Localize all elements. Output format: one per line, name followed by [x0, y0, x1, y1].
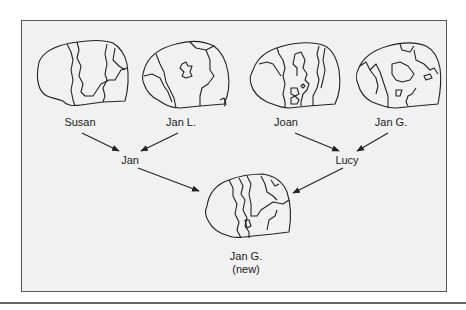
region-boundary — [239, 178, 249, 238]
region-boundary — [229, 180, 241, 238]
brain-outline — [357, 43, 441, 108]
region-boundary — [267, 210, 277, 230]
label-jan: Jan — [121, 154, 139, 167]
region-boundary — [247, 176, 289, 216]
arrow-lucy-to-result — [293, 168, 343, 193]
label-result-note: (new) — [230, 263, 262, 276]
region-boundary — [144, 74, 172, 102]
brain-map-jan-g — [357, 43, 441, 108]
region-boundary — [103, 44, 107, 102]
region-boundary — [313, 46, 319, 106]
region-boundary — [77, 42, 127, 96]
brain-outline — [250, 43, 340, 108]
brain-map-jan-l — [143, 42, 229, 108]
region-boundary — [271, 180, 279, 186]
region-boundary — [259, 62, 281, 76]
label-jan-g: Jan G. — [375, 116, 407, 129]
arrow-jan-l-to-jan — [141, 133, 178, 151]
region-island — [291, 88, 299, 96]
region-island — [392, 62, 414, 82]
region-island — [291, 96, 299, 104]
brain-map-joan — [250, 43, 340, 108]
label-susan: Susan — [64, 116, 95, 129]
region-boundary — [370, 64, 388, 108]
region-boundary — [406, 88, 416, 106]
region-boundary — [277, 48, 285, 108]
region-boundary — [400, 44, 414, 52]
label-result: Jan G. (new) — [230, 250, 262, 276]
brain-map-jan-g-new — [206, 174, 291, 238]
region-boundary — [261, 176, 277, 200]
arrow-jan-to-result — [138, 168, 199, 191]
region-boundary — [190, 42, 214, 50]
label-jan-l: Jan L. — [166, 116, 196, 129]
region-island — [424, 74, 432, 80]
region-boundary — [156, 54, 176, 108]
label-joan: Joan — [274, 116, 298, 129]
region-boundary — [67, 44, 75, 106]
brain-outline — [143, 42, 229, 108]
arrow-jan-g-to-lucy — [357, 133, 388, 151]
region-island — [180, 62, 192, 78]
region-boundary — [360, 62, 378, 94]
region-boundary — [293, 54, 297, 76]
region-island — [301, 84, 305, 88]
arrow-joan-to-lucy — [295, 133, 339, 151]
region-boundary — [113, 48, 125, 70]
brain-map-susan — [37, 40, 128, 106]
label-result-name: Jan G. — [230, 250, 262, 263]
arrow-susan-to-jan — [82, 133, 119, 151]
region-island — [396, 90, 402, 96]
region-boundary — [200, 50, 214, 106]
label-lucy: Lucy — [335, 154, 358, 167]
region-boundary — [321, 48, 325, 88]
